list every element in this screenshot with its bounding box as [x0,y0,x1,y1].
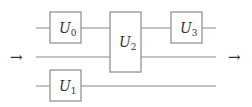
gate-u0: U0 [50,12,81,43]
gate-u2: U2 [110,12,141,72]
input-arrow-icon: → [10,48,23,66]
gate-u1: U1 [50,70,81,101]
circuit-svg: U0 U1 U2 U3 → → [0,0,252,107]
circuit-diagram: U0 U1 U2 U3 → → [0,0,252,107]
gate-u3: U3 [171,12,202,43]
output-arrow-icon: → [228,48,241,66]
